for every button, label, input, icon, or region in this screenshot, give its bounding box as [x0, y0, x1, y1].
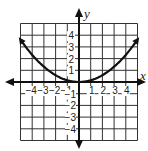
x-axis-left-arrow-icon — [5, 78, 14, 86]
x-tick-label: 1 — [89, 85, 95, 96]
y-axis-up-arrow-icon — [75, 8, 83, 17]
y-axis-label: y — [82, 6, 90, 21]
y-axis — [75, 8, 83, 149]
y-tick-label: −3 — [65, 112, 77, 123]
x-axis-label: x — [139, 68, 146, 83]
x-tick-label: 2 — [101, 85, 107, 96]
x-tick-label: −4 — [25, 85, 37, 96]
y-tick-label: 4 — [68, 30, 74, 41]
x-tick-label: −3 — [37, 85, 49, 96]
y-tick-label: −2 — [65, 100, 77, 111]
y-tick-label: 1 — [68, 65, 74, 76]
x-tick-label: −2 — [49, 85, 61, 96]
x-tick-label: 4 — [124, 85, 130, 96]
y-tick-label: −1 — [65, 89, 77, 100]
y-axis-down-arrow-icon — [75, 140, 83, 149]
x-tick-label: 3 — [112, 85, 118, 96]
y-tick-label: −4 — [65, 124, 77, 135]
x-tick-labels: −4−3−2−11234 — [25, 85, 130, 96]
coordinate-plane: y x −4−3−2−11234 4321−1−2−3−4 — [0, 0, 148, 151]
y-tick-label: 2 — [68, 54, 74, 65]
y-tick-label: 3 — [68, 42, 74, 53]
